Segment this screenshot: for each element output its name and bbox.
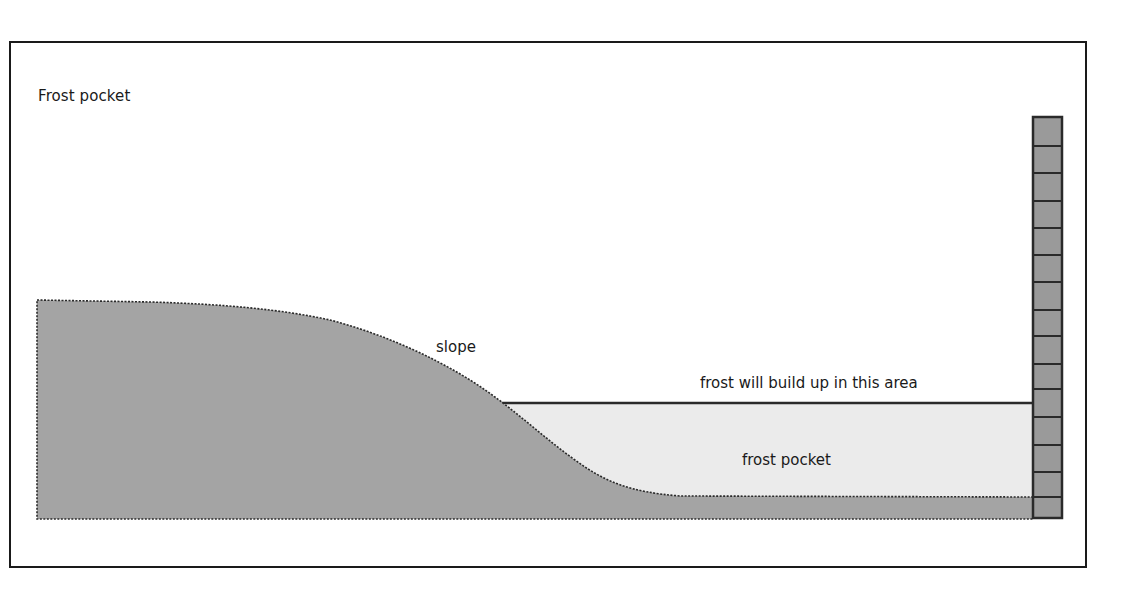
wall [1033, 117, 1062, 518]
slope-label: slope [436, 338, 476, 356]
frost-pocket-scene [0, 0, 1130, 594]
frost-line-label: frost will build up in this area [700, 374, 918, 392]
frost-pocket-label: frost pocket [742, 451, 831, 469]
